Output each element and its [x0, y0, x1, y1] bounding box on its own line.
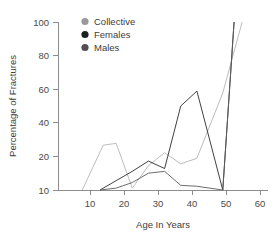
x-axis-title: Age In Years: [136, 219, 190, 230]
y-axis-tick-labels: 100 80 60 40 20 10: [33, 17, 49, 196]
y-tick-label-10: 10: [38, 185, 49, 196]
legend: Collective Females Males: [81, 16, 135, 53]
y-tick-label-20: 20: [38, 151, 49, 162]
x-tick-label-60: 60: [255, 198, 266, 209]
x-axis-ticks: [90, 190, 260, 195]
y-axis-title: Percentage of Fractures: [7, 55, 18, 157]
y-axis-ticks: [53, 22, 58, 190]
legend-marker-males: [81, 44, 88, 51]
x-axis-tick-labels: 10 20 30 40 50 60: [85, 198, 266, 209]
y-tick-label-80: 80: [38, 50, 49, 61]
legend-label-females: Females: [94, 29, 131, 40]
legend-label-males: Males: [94, 42, 120, 53]
fracture-percentage-line-chart: 100 80 60 40 20 10 10 20 30 40 50 60 Age…: [0, 0, 278, 243]
x-tick-label-10: 10: [85, 198, 96, 209]
y-tick-label-100: 100: [33, 17, 49, 28]
x-tick-label-20: 20: [119, 198, 130, 209]
x-tick-label-30: 30: [153, 198, 164, 209]
x-tick-label-40: 40: [187, 198, 198, 209]
y-tick-label-40: 40: [38, 117, 49, 128]
series-line-males: [100, 22, 234, 190]
series-line-females: [100, 22, 234, 190]
x-tick-label-50: 50: [221, 198, 232, 209]
legend-marker-females: [81, 31, 88, 38]
legend-label-collective: Collective: [94, 16, 135, 27]
y-tick-label-60: 60: [38, 84, 49, 95]
legend-marker-collective: [81, 18, 88, 25]
chart-canvas: 100 80 60 40 20 10 10 20 30 40 50 60 Age…: [0, 0, 278, 243]
